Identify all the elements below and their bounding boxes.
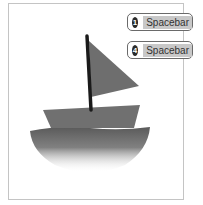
key-label: Spacebar — [143, 16, 192, 29]
key-label: Spacebar — [143, 44, 192, 57]
step-number: 1 — [132, 17, 138, 28]
key-badge-1: 1 Spacebar — [127, 13, 193, 31]
step-number: 4 — [132, 45, 138, 56]
water-shape — [30, 127, 150, 173]
key-badge-2: 4 Spacebar — [127, 41, 193, 59]
